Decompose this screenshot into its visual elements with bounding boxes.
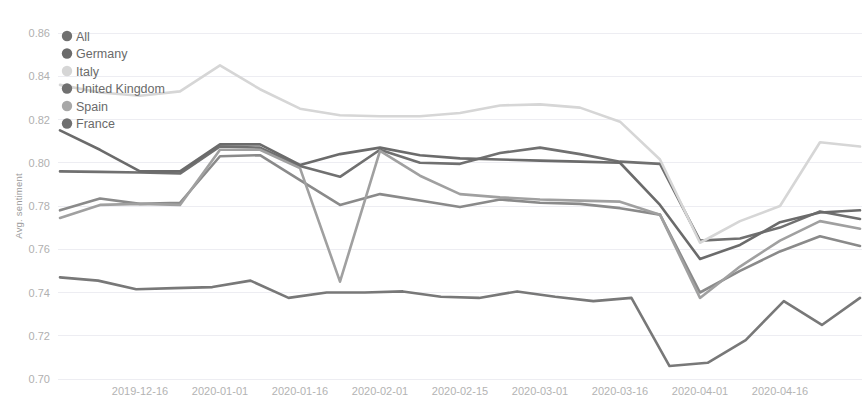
y-axis-tick-label: 0.76 (29, 243, 50, 255)
y-axis-tick-label: 0.70 (29, 373, 50, 385)
x-axis-tick-label: 2020-03-01 (512, 385, 568, 397)
legend-marker-icon[interactable] (62, 48, 72, 58)
series-lines (60, 65, 860, 366)
y-axis-tick-label: 0.86 (29, 27, 50, 39)
legend-marker-icon[interactable] (62, 83, 72, 93)
legend-label-united-kingdom[interactable]: United Kingdom (76, 82, 165, 96)
y-axis-tick-labels: 0.700.720.740.760.780.800.820.840.86 (29, 27, 50, 385)
series-line-united-kingdom (60, 155, 860, 292)
y-axis-tick-label: 0.78 (29, 200, 50, 212)
y-axis-tick-label: 0.80 (29, 157, 50, 169)
series-line-france (60, 277, 860, 366)
legend-marker-icon[interactable] (62, 31, 72, 41)
legend-marker-icon[interactable] (62, 66, 72, 76)
legend-label-spain[interactable]: Spain (76, 100, 108, 114)
legend-label-all[interactable]: All (76, 30, 90, 44)
chart-legend: AllGermanyItalyUnited KingdomSpainFrance (62, 30, 165, 132)
series-line-italy (60, 65, 860, 242)
legend-label-italy[interactable]: Italy (76, 65, 100, 79)
legend-label-germany[interactable]: Germany (76, 47, 128, 61)
y-axis-tick-label: 0.84 (29, 70, 50, 82)
legend-label-france[interactable]: France (76, 117, 115, 131)
y-axis-tick-label: 0.74 (29, 287, 50, 299)
y-axis-title: Avg. sentiment (13, 173, 24, 239)
x-axis-tick-label: 2020-04-01 (672, 385, 728, 397)
y-axis-tick-label: 0.72 (29, 330, 50, 342)
x-axis-tick-label: 2020-02-15 (432, 385, 488, 397)
x-axis-tick-label: 2020-01-01 (192, 385, 248, 397)
legend-marker-icon[interactable] (62, 101, 72, 111)
x-axis-tick-labels: 2019-12-162020-01-012020-01-162020-02-01… (112, 385, 808, 397)
x-axis-tick-label: 2020-01-16 (272, 385, 328, 397)
legend-marker-icon[interactable] (62, 118, 72, 128)
x-axis-tick-label: 2020-03-16 (592, 385, 648, 397)
sentiment-line-chart: 0.700.720.740.760.780.800.820.840.86 201… (0, 0, 867, 415)
y-axis-tick-label: 0.82 (29, 114, 50, 126)
chart-canvas: 0.700.720.740.760.780.800.820.840.86 201… (0, 0, 867, 415)
x-axis-tick-label: 2020-02-01 (352, 385, 408, 397)
x-axis-tick-label: 2019-12-16 (112, 385, 168, 397)
x-axis-tick-label: 2020-04-16 (752, 385, 808, 397)
